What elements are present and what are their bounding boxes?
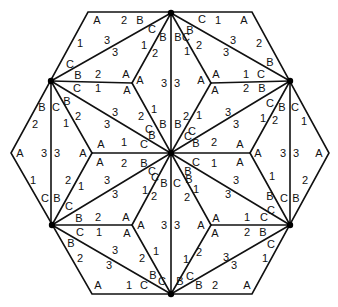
edge-line bbox=[132, 153, 171, 225]
vertex-dot bbox=[168, 150, 174, 156]
vertex-dot bbox=[48, 78, 54, 84]
corner-label: 2 bbox=[95, 68, 101, 80]
corner-label: 1 bbox=[153, 245, 159, 257]
corner-label: C bbox=[173, 177, 181, 189]
corner-label: 1 bbox=[126, 279, 132, 291]
corner-label: C bbox=[76, 226, 84, 238]
corner-label: 1 bbox=[77, 37, 83, 49]
corner-label: A bbox=[122, 211, 130, 223]
corner-label: A bbox=[211, 227, 219, 239]
corner-label: 1 bbox=[95, 82, 101, 94]
corner-label: 2 bbox=[151, 190, 157, 202]
corner-label: 1 bbox=[196, 109, 202, 121]
corner-label: A bbox=[123, 227, 131, 239]
vertex-dot bbox=[49, 222, 55, 228]
hexagon-diagram: A2BC1A13CB312BCB23213CBB2AA33AA1CC1AA2BB… bbox=[0, 0, 338, 307]
corner-label: 3 bbox=[231, 259, 237, 271]
corner-label: B bbox=[38, 101, 45, 113]
corner-label: B bbox=[258, 82, 265, 94]
corner-label: 1 bbox=[260, 112, 266, 124]
corner-label: B bbox=[174, 31, 181, 43]
corner-label: 1 bbox=[301, 115, 307, 127]
corner-label: B bbox=[148, 129, 155, 141]
corner-label: C bbox=[151, 171, 159, 183]
vertex-dot bbox=[168, 10, 174, 16]
corner-label: C bbox=[184, 130, 192, 142]
corner-label: A bbox=[197, 219, 205, 231]
corner-label: A bbox=[236, 138, 244, 150]
corner-label: 1 bbox=[30, 174, 36, 186]
edge-line bbox=[211, 81, 290, 83]
edge-line bbox=[171, 153, 211, 225]
corner-label: 3 bbox=[280, 147, 286, 159]
corner-label: C bbox=[291, 101, 299, 113]
corner-label: 1 bbox=[96, 226, 102, 238]
corner-label: 2 bbox=[244, 226, 250, 238]
corner-label: A bbox=[212, 212, 220, 224]
corner-label: A bbox=[79, 147, 87, 159]
corner-label: B bbox=[174, 118, 181, 130]
corner-label: 3 bbox=[233, 118, 239, 130]
corner-label: C bbox=[186, 270, 194, 282]
corner-label: C bbox=[158, 275, 166, 287]
corner-label: A bbox=[122, 68, 130, 80]
corner-label: C bbox=[52, 101, 60, 113]
corner-label: C bbox=[257, 68, 265, 80]
corner-label: A bbox=[97, 138, 105, 150]
corner-label: 1 bbox=[184, 45, 190, 57]
corner-label: B bbox=[159, 31, 166, 43]
corner-label: 1 bbox=[78, 180, 84, 192]
corner-label: B bbox=[186, 24, 193, 36]
edge-line bbox=[51, 81, 132, 83]
corner-label: 3 bbox=[293, 147, 299, 159]
corner-label: 3 bbox=[233, 174, 239, 186]
corner-label: 2 bbox=[302, 174, 308, 186]
edge-line bbox=[51, 81, 92, 153]
vertex-dot bbox=[168, 291, 174, 297]
corner-label: C bbox=[65, 200, 73, 212]
corner-label: 2 bbox=[212, 279, 218, 291]
corner-label: B bbox=[292, 192, 299, 204]
corner-label: 1 bbox=[193, 183, 199, 195]
corner-label: 3 bbox=[161, 219, 167, 231]
corner-label: 1 bbox=[211, 157, 217, 169]
corner-label: B bbox=[159, 118, 166, 130]
corner-label: B bbox=[195, 279, 202, 291]
corner-label: B bbox=[185, 173, 192, 185]
corner-label: 2 bbox=[211, 136, 217, 148]
corner-label: A bbox=[236, 156, 244, 168]
corner-label: 3 bbox=[112, 46, 118, 58]
corner-label: A bbox=[123, 84, 131, 96]
corner-label: 2 bbox=[272, 114, 278, 126]
corner-label: C bbox=[192, 156, 200, 168]
vertex-dot bbox=[287, 222, 293, 228]
corner-label: B bbox=[140, 157, 147, 169]
corner-label: C bbox=[198, 13, 206, 25]
corner-label: A bbox=[254, 147, 262, 159]
corner-label: A bbox=[137, 219, 145, 231]
corner-label: 2 bbox=[196, 39, 202, 51]
corner-label: 3 bbox=[161, 77, 167, 89]
corner-label: C bbox=[66, 58, 74, 70]
corner-label: 1 bbox=[269, 170, 275, 182]
corner-label: B bbox=[176, 275, 183, 287]
corner-label: 1 bbox=[183, 253, 189, 265]
corner-label: 2 bbox=[184, 191, 190, 203]
corner-label: A bbox=[94, 279, 102, 291]
corner-label: 3 bbox=[41, 147, 47, 159]
corner-label: 3 bbox=[104, 174, 110, 186]
corner-label: 1 bbox=[215, 14, 221, 26]
corner-label: 2 bbox=[138, 110, 144, 122]
corner-label: 3 bbox=[230, 34, 236, 46]
edge-line bbox=[250, 81, 290, 153]
corner-label: 1 bbox=[121, 136, 127, 148]
corner-label: C bbox=[266, 97, 274, 109]
corner-label: 2 bbox=[121, 157, 127, 169]
corner-label: 2 bbox=[183, 110, 189, 122]
corner-label: 1 bbox=[244, 211, 250, 223]
corner-label: A bbox=[243, 279, 251, 291]
corner-label: B bbox=[278, 101, 285, 113]
corner-label: B bbox=[266, 190, 273, 202]
corner-label: 2 bbox=[196, 246, 202, 258]
corner-label: 2 bbox=[32, 118, 38, 130]
